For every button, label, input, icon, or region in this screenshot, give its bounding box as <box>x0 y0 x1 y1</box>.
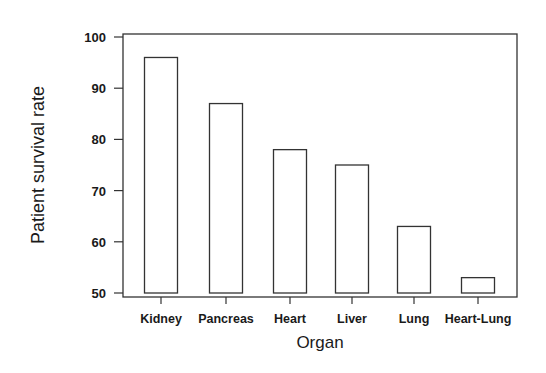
x-tick-label: Heart <box>274 312 307 326</box>
bars <box>145 57 495 293</box>
x-axis: KidneyPancreasHeartLiverLungHeart-Lung <box>140 297 511 326</box>
plot-frame <box>123 34 517 297</box>
x-tick-label: Heart-Lung <box>445 312 512 326</box>
y-tick-label: 70 <box>92 184 106 199</box>
y-tick-label: 60 <box>92 235 106 250</box>
y-axis: 5060708090100 <box>84 30 123 301</box>
bar-chart: 5060708090100 KidneyPancreasHeartLiverLu… <box>0 0 546 373</box>
x-tick-label: Lung <box>399 312 430 326</box>
bar-liver <box>336 165 369 293</box>
y-tick-label: 100 <box>84 30 106 45</box>
bar-heart <box>274 150 307 293</box>
y-tick-label: 90 <box>92 81 106 96</box>
x-axis-label: Organ <box>296 333 343 352</box>
bar-heart-lung <box>462 278 495 293</box>
bar-pancreas <box>210 104 243 293</box>
x-tick-label: Pancreas <box>198 312 254 326</box>
x-tick-label: Liver <box>337 312 367 326</box>
x-tick-label: Kidney <box>140 312 182 326</box>
bar-lung <box>398 226 431 293</box>
y-tick-label: 50 <box>92 286 106 301</box>
y-tick-label: 80 <box>92 132 106 147</box>
y-axis-label: Patient survival rate <box>28 86 48 244</box>
bar-kidney <box>145 57 178 293</box>
